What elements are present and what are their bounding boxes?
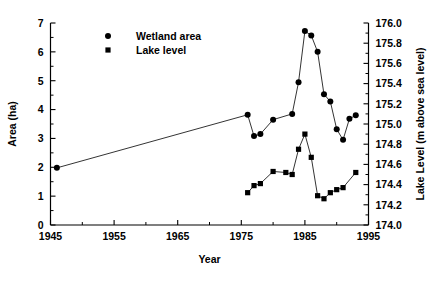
y-axis-right-tick-label: 175.8 <box>376 37 402 49</box>
data-point-circle <box>308 32 314 38</box>
y-axis-right-tick-label: 174.0 <box>376 219 402 231</box>
y-axis-left-tick-label: 7 <box>38 17 44 29</box>
data-point-square <box>315 193 320 198</box>
y-axis-right-tick-label: 175.6 <box>376 57 402 69</box>
data-point-circle <box>289 111 295 117</box>
y-axis-left-tick-label: 0 <box>38 219 44 231</box>
wetland-area-lake-level-chart: 01234567174.0174.2174.4174.6174.8175.017… <box>0 0 439 282</box>
data-point-square <box>321 196 326 201</box>
chart-legend: Wetland areaLake level <box>105 30 201 56</box>
data-point-circle <box>54 165 60 171</box>
y-axis-left-tick-label: 1 <box>38 190 44 202</box>
x-axis-title: Year <box>198 253 220 265</box>
x-axis-tick-label: 1985 <box>293 230 317 242</box>
y-axis-right-tick-label: 175.4 <box>376 77 402 89</box>
y-axis-left-tick-label: 3 <box>38 132 44 144</box>
x-axis-tick-label: 1945 <box>39 230 63 242</box>
data-point-square <box>245 190 250 195</box>
data-point-square <box>309 155 314 160</box>
y-axis-right-tick-label: 175.2 <box>376 98 402 110</box>
data-point-circle <box>334 126 340 132</box>
y-axis-right-tick-label: 176.0 <box>376 17 402 29</box>
y-axis-left-tick-label: 4 <box>38 103 44 115</box>
x-axis-tick-label: 1955 <box>102 230 126 242</box>
data-point-circle <box>296 79 302 85</box>
data-point-circle <box>315 49 321 55</box>
data-point-circle <box>340 137 346 143</box>
data-point-circle <box>302 28 308 34</box>
data-point-square <box>258 181 263 186</box>
data-point-circle <box>321 91 327 97</box>
series-wetland-area <box>54 28 359 171</box>
data-point-circle <box>353 112 359 118</box>
data-point-square <box>271 169 276 174</box>
data-point-square <box>296 147 301 152</box>
chart-container: 01234567174.0174.2174.4174.6174.8175.017… <box>0 0 439 282</box>
data-point-square <box>353 170 358 175</box>
y-axis-right-tick-label: 174.4 <box>376 178 402 190</box>
y-axis-left-title: Area (ha) <box>6 101 18 147</box>
data-point-circle <box>327 98 333 104</box>
data-point-square <box>302 132 307 137</box>
data-point-square <box>283 170 288 175</box>
x-axis-tick-label: 1995 <box>357 230 381 242</box>
y-axis-right-tick-label: 174.2 <box>376 199 402 211</box>
x-axis-tick-label: 1965 <box>166 230 190 242</box>
y-axis-right-tick-label: 174.6 <box>376 158 402 170</box>
y-axis-left-tick-label: 6 <box>38 46 44 58</box>
data-point-square <box>290 172 295 177</box>
data-point-circle <box>270 117 276 123</box>
y-axis-left-tick-label: 5 <box>38 75 44 87</box>
data-point-square <box>334 187 339 192</box>
legend-marker-square <box>105 47 110 52</box>
y-axis-left-tick-label: 2 <box>38 161 44 173</box>
y-axis-right-tick-label: 175.0 <box>376 118 402 130</box>
y-axis-right-tick-label: 174.8 <box>376 138 402 150</box>
data-point-circle <box>346 116 352 122</box>
legend-label: Lake level <box>136 44 186 56</box>
legend-marker-circle <box>105 33 111 39</box>
data-point-circle <box>245 112 251 118</box>
data-point-square <box>340 185 345 190</box>
data-point-square <box>251 183 256 188</box>
data-point-circle <box>251 133 257 139</box>
data-point-square <box>328 190 333 195</box>
series-line <box>248 134 356 199</box>
series-line <box>57 31 356 168</box>
x-axis-tick-label: 1975 <box>230 230 254 242</box>
y-axis-right-title: Lake Level (m above sea level) <box>414 48 426 201</box>
data-point-circle <box>257 131 263 137</box>
legend-label: Wetland area <box>136 30 201 42</box>
